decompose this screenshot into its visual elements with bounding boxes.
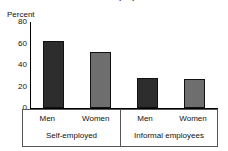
bar-informal-employees-men: [137, 78, 158, 108]
label-group-informal-employees: MenWomenInformal employees: [120, 110, 217, 146]
category-label-men: Men: [121, 112, 169, 128]
y-axis-tick-60: 60: [5, 40, 27, 48]
category-label-women: Women: [72, 112, 121, 128]
bar-chart: Informal employment Percent 806040200 Me…: [0, 0, 228, 151]
category-label-women: Women: [169, 112, 217, 128]
bar-self-employed-men: [43, 41, 64, 108]
y-axis-tick-80: 80: [5, 18, 27, 26]
chart-title: Informal employment: [0, 0, 228, 1]
group-label: Informal employees: [121, 129, 217, 143]
y-axis-tick-20: 20: [5, 83, 27, 91]
category-label-row: MenWomen: [23, 112, 120, 128]
label-group-self-employed: MenWomenSelf-employed: [23, 110, 120, 146]
group-label: Self-employed: [23, 129, 120, 143]
x-axis-label-table: MenWomenSelf-employedMenWomenInformal em…: [22, 109, 218, 147]
plot-area: [30, 22, 218, 108]
bar-self-employed-women: [90, 52, 111, 108]
bar-informal-employees-women: [184, 79, 205, 108]
category-label-row: MenWomen: [121, 112, 217, 128]
y-axis-tick-labels: 806040200: [0, 18, 27, 112]
y-axis-tick-40: 40: [5, 61, 27, 69]
category-label-men: Men: [23, 112, 72, 128]
